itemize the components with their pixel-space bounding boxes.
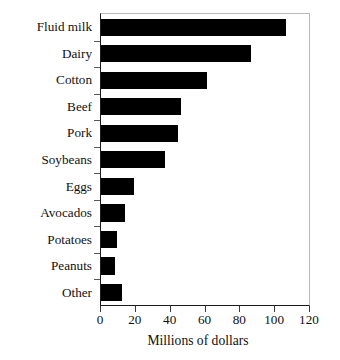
y-axis-tick [94, 147, 100, 148]
bar-band [101, 226, 310, 253]
bar-band [101, 147, 310, 174]
y-axis-label: Fluid milk [0, 20, 92, 33]
y-axis-label: Cotton [0, 73, 92, 86]
bar-band [101, 41, 310, 68]
y-axis-label: Beef [0, 100, 92, 113]
y-axis-label: Eggs [0, 180, 92, 193]
bar-band [101, 14, 310, 41]
bar [101, 19, 286, 36]
bar [101, 72, 207, 89]
bar [101, 257, 115, 274]
y-axis-label: Potatoes [0, 233, 92, 246]
x-axis-title: Millions of dollars [0, 333, 340, 349]
bar [101, 125, 178, 142]
y-axis-tick [94, 279, 100, 280]
y-axis-label: Soybeans [0, 153, 92, 166]
y-axis-tick [94, 94, 100, 95]
bar-band [101, 94, 310, 121]
bars-layer [101, 14, 310, 306]
y-axis-tick [94, 226, 100, 227]
bar-band [101, 67, 310, 94]
bar-band [101, 120, 310, 147]
y-axis-label: Avocados [0, 206, 92, 219]
bar [101, 284, 122, 301]
bar [101, 231, 117, 248]
bar-band [101, 253, 310, 280]
bar-band [101, 173, 310, 200]
bar [101, 98, 181, 115]
y-axis-category-labels: Fluid milkDairyCottonBeefPorkSoybeansEgg… [0, 14, 92, 306]
x-axis-tick-label: 120 [289, 313, 329, 326]
y-axis-tick [94, 67, 100, 68]
bar [101, 151, 165, 168]
y-axis-label: Dairy [0, 47, 92, 60]
y-axis-tick [94, 120, 100, 121]
bar-chart: Fluid milkDairyCottonBeefPorkSoybeansEgg… [0, 0, 340, 360]
y-axis-label: Pork [0, 126, 92, 139]
y-axis-label: Peanuts [0, 259, 92, 272]
y-axis-tick [94, 253, 100, 254]
y-axis-tick [94, 41, 100, 42]
bar [101, 45, 251, 62]
y-axis-tick [94, 200, 100, 201]
y-axis-tick [94, 173, 100, 174]
x-axis-title-text: Millions of dollars [147, 333, 248, 349]
bar-band [101, 279, 310, 306]
y-axis-label: Other [0, 286, 92, 299]
bar [101, 204, 125, 221]
bar-band [101, 200, 310, 227]
bar [101, 178, 134, 195]
